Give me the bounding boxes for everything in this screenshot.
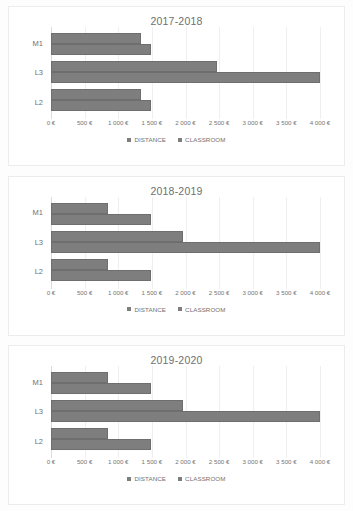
legend-item[interactable]: DISTANCE: [127, 136, 166, 143]
x-tick-label: 4 000 €: [310, 117, 331, 128]
bar-group: [51, 372, 320, 396]
plot-canvas: [51, 201, 320, 285]
bar-classroom: [51, 100, 151, 111]
legend-swatch-icon: [127, 477, 131, 481]
category-label: M1: [33, 40, 43, 48]
x-tick-label: 2 000 €: [175, 456, 196, 467]
x-tick-label: 500 €: [77, 287, 92, 298]
gridline: [320, 197, 321, 289]
x-tick-label: 500 €: [77, 456, 92, 467]
bar-group: [51, 89, 320, 113]
bar-rows: [51, 201, 320, 285]
x-tick-label: 3 500 €: [276, 117, 297, 128]
legend-item[interactable]: DISTANCE: [127, 475, 166, 482]
legend-item[interactable]: CLASSROOM: [178, 475, 225, 482]
bar-classroom: [51, 242, 320, 253]
x-tick-label: 0 €: [47, 117, 56, 128]
x-tick-labels: 0 €500 €1 000 €1 500 €2 000 €2 500 €3 00…: [51, 287, 320, 301]
x-tick-label: 2 500 €: [209, 117, 230, 128]
bar-classroom: [51, 411, 320, 422]
chart-panel-2: 2019-2020 M1 L3 L2 0 €500 €1 000 €1 500 …: [8, 345, 345, 505]
legend-swatch-icon: [178, 307, 182, 311]
x-tick-label: 3 000 €: [242, 287, 263, 298]
category-axis: M1 L3 L2: [17, 368, 47, 456]
x-tick-labels: 0 €500 €1 000 €1 500 €2 000 €2 500 €3 00…: [51, 456, 320, 470]
legend: DISTANCECLASSROOM: [9, 131, 344, 143]
legend-swatch-icon: [127, 138, 131, 142]
bar-group: [51, 203, 320, 227]
bar-classroom: [51, 72, 320, 83]
bar-classroom: [51, 44, 151, 55]
legend-swatch-icon: [127, 307, 131, 311]
legend-item[interactable]: DISTANCE: [127, 306, 166, 313]
bar-distance: [51, 33, 141, 44]
category-label: M1: [33, 379, 43, 387]
charts-page: 2017-2018 M1 L3 L2 0 €500 €1 000 €1 500 …: [0, 0, 353, 511]
x-tick-label: 3 000 €: [242, 117, 263, 128]
bar-group: [51, 231, 320, 255]
legend-swatch-icon: [178, 477, 182, 481]
bar-group: [51, 33, 320, 57]
legend-item[interactable]: CLASSROOM: [178, 136, 225, 143]
category-label: M1: [33, 209, 43, 217]
legend-item[interactable]: CLASSROOM: [178, 306, 225, 313]
legend-label: CLASSROOM: [185, 306, 225, 313]
chart-title: 2019-2020: [9, 346, 344, 368]
x-tick-label: 2 000 €: [175, 287, 196, 298]
x-tick-label: 4 000 €: [310, 456, 331, 467]
category-label: L3: [35, 408, 43, 416]
value-axis: 0 €500 €1 000 €1 500 €2 000 €2 500 €3 00…: [17, 117, 332, 131]
x-tick-label: 3 500 €: [276, 287, 297, 298]
plot-canvas: [51, 31, 320, 115]
plot-area: M1 L3 L2: [17, 29, 332, 117]
bar-rows: [51, 370, 320, 454]
bar-classroom: [51, 383, 151, 394]
x-tick-label: 2 000 €: [175, 117, 196, 128]
bar-distance: [51, 231, 183, 242]
bar-rows: [51, 31, 320, 115]
bar-distance: [51, 203, 108, 214]
legend: DISTANCECLASSROOM: [9, 301, 344, 313]
bar-distance: [51, 372, 108, 383]
bar-distance: [51, 61, 217, 72]
x-tick-label: 3 500 €: [276, 456, 297, 467]
chart-title: 2018-2019: [9, 177, 344, 199]
x-tick-label: 1 500 €: [142, 456, 163, 467]
bar-distance: [51, 400, 183, 411]
bar-group: [51, 61, 320, 85]
bar-distance: [51, 89, 141, 100]
plot-area: M1 L3 L2: [17, 199, 332, 287]
category-label: L3: [35, 239, 43, 247]
x-tick-labels: 0 €500 €1 000 €1 500 €2 000 €2 500 €3 00…: [51, 117, 320, 131]
value-axis: 0 €500 €1 000 €1 500 €2 000 €2 500 €3 00…: [17, 287, 332, 301]
legend-label: CLASSROOM: [185, 475, 225, 482]
value-axis: 0 €500 €1 000 €1 500 €2 000 €2 500 €3 00…: [17, 456, 332, 470]
plot-area: M1 L3 L2: [17, 368, 332, 456]
bar-distance: [51, 428, 108, 439]
legend-label: DISTANCE: [134, 136, 166, 143]
legend: DISTANCECLASSROOM: [9, 470, 344, 482]
plot-canvas: [51, 370, 320, 454]
category-axis: M1 L3 L2: [17, 29, 47, 117]
bar-classroom: [51, 270, 151, 281]
x-tick-label: 1 000 €: [108, 456, 129, 467]
gridline: [320, 27, 321, 119]
x-tick-label: 500 €: [77, 117, 92, 128]
gridline: [320, 366, 321, 458]
category-label: L2: [35, 99, 43, 107]
bar-group: [51, 259, 320, 283]
legend-label: DISTANCE: [134, 475, 166, 482]
x-tick-label: 4 000 €: [310, 287, 331, 298]
x-tick-label: 2 500 €: [209, 456, 230, 467]
x-tick-label: 1 000 €: [108, 287, 129, 298]
x-tick-label: 1 000 €: [108, 117, 129, 128]
chart-panel-0: 2017-2018 M1 L3 L2 0 €500 €1 000 €1 500 …: [8, 6, 345, 166]
chart-title: 2017-2018: [9, 7, 344, 29]
bar-distance: [51, 259, 108, 270]
category-label: L3: [35, 69, 43, 77]
x-tick-label: 2 500 €: [209, 287, 230, 298]
bar-group: [51, 400, 320, 424]
legend-label: DISTANCE: [134, 306, 166, 313]
x-tick-label: 1 500 €: [142, 117, 163, 128]
x-tick-label: 3 000 €: [242, 456, 263, 467]
